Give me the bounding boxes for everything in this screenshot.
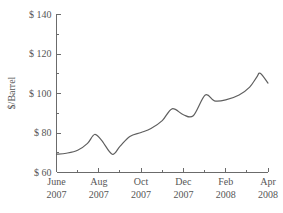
y-tick-label: $ 140 [29,9,52,20]
y-tick-label: $ 100 [29,88,52,99]
x-tick-label-year: 2007 [89,189,109,200]
y-tick-label: $ 120 [29,48,52,59]
chart-plot-area: $ 60$ 80$ 100$ 120$ 140 June2007Aug2007O… [0,0,283,213]
x-tick-label-year: 2007 [47,189,67,200]
x-axis-ticks [57,168,269,172]
x-tick-label-month: Feb [218,176,233,187]
x-tick-label-year: 2007 [173,189,193,200]
price-line-series [57,73,269,154]
x-tick-label-month: June [47,176,66,187]
x-tick-label-year: 2008 [258,189,278,200]
x-tick-label-month: Dec [175,176,192,187]
y-axis-title: $/Barrel [6,76,17,109]
x-tick-label-month: Oct [134,176,149,187]
x-tick-label-year: 2007 [131,189,151,200]
oil-price-chart: $ 60$ 80$ 100$ 120$ 140 June2007Aug2007O… [0,0,283,213]
y-axis-tick-labels: $ 60$ 80$ 100$ 120$ 140 [29,9,52,178]
x-tick-label-month: Apr [260,176,276,187]
y-tick-label: $ 80 [34,127,52,138]
x-tick-label-month: Aug [90,176,107,187]
x-axis-tick-labels: June2007Aug2007Oct2007Dec2007Feb2008Apr2… [47,176,279,200]
y-axis-ticks [57,15,61,173]
x-tick-label-year: 2008 [216,189,236,200]
